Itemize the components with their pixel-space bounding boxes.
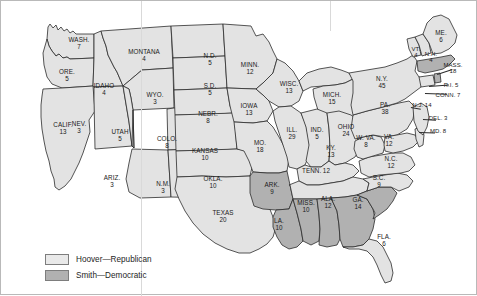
- state-calif[interactable]: [41, 86, 95, 190]
- legend-label-republican: Hoover—Republican: [76, 255, 152, 264]
- vertical-guide-line-right: [330, 1, 331, 31]
- state-nebr[interactable]: [174, 88, 234, 115]
- us-map-svg: [1, 1, 477, 296]
- state-sd[interactable]: [173, 56, 227, 90]
- state-md[interactable]: [384, 133, 419, 153]
- vertical-guide-line-left: [141, 1, 142, 296]
- state-nd[interactable]: [171, 24, 225, 58]
- state-ariz[interactable]: [126, 149, 171, 198]
- legend-swatch-republican: [45, 254, 69, 265]
- state-okla[interactable]: [176, 149, 253, 177]
- legend-item-democratic[interactable]: Smith—Democratic: [45, 269, 152, 282]
- map-legend: Hoover—Republican Smith—Democratic: [45, 253, 152, 285]
- us-electoral-map: WASH.7 ORE.5 CALIF.13 IDAHO4 NEV.3 MONTA…: [1, 1, 477, 296]
- state-ark[interactable]: [250, 171, 293, 210]
- legend-label-democratic: Smith—Democratic: [76, 271, 147, 280]
- state-shapes: [41, 15, 457, 283]
- state-kansas[interactable]: [175, 113, 237, 151]
- legend-item-republican[interactable]: Hoover—Republican: [45, 253, 152, 266]
- legend-swatch-democratic: [45, 270, 69, 281]
